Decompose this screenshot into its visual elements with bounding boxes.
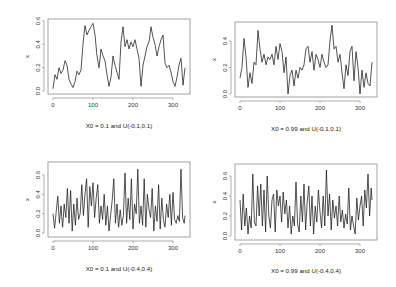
x-tick-label: 100 — [88, 245, 99, 251]
panel-caption: X0 = 0.99 and U(-0.1,0.1) — [271, 125, 341, 132]
y-axis-label: x — [211, 201, 217, 204]
x-tick-label: 0 — [238, 248, 242, 254]
figure-canvas: X0 = 0.1 and U(-0.1,0.1) 01002003000.00.… — [0, 0, 396, 287]
series-line — [53, 23, 185, 88]
y-tick-label: 0.4 — [35, 189, 41, 198]
series-line — [240, 170, 372, 234]
x-tick-label: 200 — [315, 105, 326, 111]
y-tick-label: 0.6 — [35, 170, 41, 179]
panel-bottom-left: X0 = 0.1 and U(-0.4,0.4) 01002003000.00.… — [24, 162, 190, 272]
y-axis-label: x — [211, 58, 217, 61]
x-tick-label: 300 — [168, 245, 179, 251]
y-tick-label: 0.6 — [222, 171, 228, 180]
x-tick-label: 100 — [275, 248, 286, 254]
y-tick-label: 0.0 — [222, 231, 228, 240]
x-tick-label: 0 — [51, 102, 55, 108]
panel-caption: X0 = 0.1 and U(-0.4,0.4) — [86, 265, 153, 272]
x-tick-label: 0 — [238, 105, 242, 111]
x-tick-label: 300 — [168, 102, 179, 108]
series-line — [53, 169, 185, 231]
panel-top-right: X0 = 0.99 and U(-0.1,0.1) 01002003000.00… — [211, 22, 377, 132]
y-tick-label: 0.0 — [35, 86, 41, 95]
y-tick-label: 0.0 — [35, 228, 41, 237]
x-tick-label: 300 — [355, 105, 366, 111]
x-tick-label: 300 — [355, 248, 366, 254]
y-tick-label: 0.4 — [222, 191, 228, 200]
y-tick-label: 0.4 — [222, 36, 228, 45]
y-tick-label: 0.6 — [35, 16, 41, 25]
y-tick-label: 0.2 — [35, 63, 41, 72]
y-tick-label: 0.2 — [222, 211, 228, 220]
series-line — [240, 25, 372, 94]
y-tick-label: 0.0 — [222, 89, 228, 98]
x-tick-label: 200 — [315, 248, 326, 254]
x-tick-label: 200 — [128, 245, 139, 251]
y-axis-label: x — [24, 198, 30, 201]
x-tick-label: 200 — [128, 102, 139, 108]
y-tick-label: 0.2 — [35, 209, 41, 218]
plot-frame — [48, 19, 190, 94]
x-tick-label: 0 — [51, 245, 55, 251]
panel-caption: X0 = 0.99 and U(-0.4,0.4) — [271, 267, 341, 274]
y-tick-label: 0.4 — [35, 39, 41, 48]
panel-caption: X0 = 0.1 and U(-0.1,0.1) — [86, 122, 153, 129]
y-axis-label: x — [24, 55, 30, 58]
panel-top-left: X0 = 0.1 and U(-0.1,0.1) 01002003000.00.… — [24, 16, 190, 129]
x-tick-label: 100 — [88, 102, 99, 108]
y-tick-label: 0.2 — [222, 63, 228, 72]
panel-bottom-right: X0 = 0.99 and U(-0.4,0.4) 01002003000.00… — [211, 164, 377, 274]
x-tick-label: 100 — [275, 105, 286, 111]
